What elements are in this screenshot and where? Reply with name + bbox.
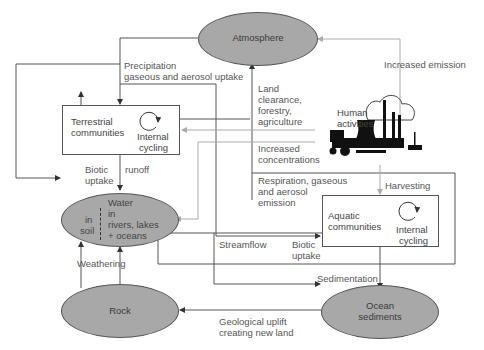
label-streamflow: Streamflow [219,239,267,250]
label-gaseous-uptake: gaseous and aerosol uptake [124,71,243,82]
label-sedimentation: Sedimentation [317,273,378,284]
label-incconc-1: Increased [258,143,300,154]
aquatic-label-1: Aquatic [328,210,360,221]
aquatic-cycle-1: Internal [396,224,428,235]
human-activities-label-2: activities [337,118,373,129]
water-rivers-3: + oceans [108,230,147,241]
label-respiration-2: and aerosol [258,186,308,197]
label-incconc-2: concentrations [258,154,320,165]
water-soil-2: soil [80,225,94,236]
terrestrial-label-1: Terrestrial [71,116,113,127]
aquatic-cycle-2: cycling [399,235,428,246]
ocean-label-2: sediments [321,311,439,322]
label-uplift-1: Geological uplift [219,316,287,327]
ocean-label-1: Ocean [321,300,439,311]
label-biotic-uptake-1b: uptake [85,175,114,186]
label-biotic-uptake-1a: Biotic [85,164,108,175]
label-biotic-uptake-2a: Biotic [292,239,315,250]
label-increased-emission: Increased emission [384,59,466,70]
label-land-2: clearance, [258,94,302,105]
water-soil-1: in [85,214,92,225]
terrestrial-cycle-1: Internal [137,131,169,142]
aquatic-label-2: communities [328,221,381,232]
water-title: Water [108,197,133,208]
label-precipitation: Precipitation [124,60,176,71]
rock-label: Rock [61,305,179,316]
terrestrial-cycle-2: cycling [139,142,168,153]
cycle-icon [393,198,423,224]
label-harvesting: Harvesting [385,180,430,191]
label-uplift-2: creating new land [219,327,293,338]
label-land-1: Land [258,83,279,94]
label-biotic-uptake-2b: uptake [292,250,321,261]
label-land-4: agriculture [258,116,302,127]
label-respiration-1: Respiration, gaseous [258,175,347,186]
terrestrial-label-2: communities [71,127,124,138]
human-activities-label-1: Human [337,107,368,118]
label-weathering: Weathering [77,258,125,269]
label-runoff: runoff [125,164,149,175]
water-rivers-1: in [108,208,115,219]
atmosphere-label: Atmosphere [198,32,318,43]
water-rivers-2: rivers, lakes [108,219,159,230]
label-respiration-3: emission [258,197,296,208]
label-land-3: forestry, [258,105,292,116]
water-divider [100,208,101,240]
